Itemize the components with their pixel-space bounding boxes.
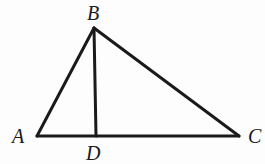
segments — [37, 28, 239, 136]
segment-bd — [94, 28, 96, 136]
diagram-canvas: A B C D — [0, 0, 265, 164]
label-d: D — [85, 142, 101, 164]
segment-ab — [37, 28, 94, 136]
triangle-diagram: A B C D — [0, 0, 265, 164]
label-b: B — [87, 2, 99, 24]
vertex-labels: A B C D — [10, 2, 262, 164]
label-a: A — [10, 125, 25, 147]
label-c: C — [248, 125, 262, 147]
segment-bc — [94, 28, 239, 136]
